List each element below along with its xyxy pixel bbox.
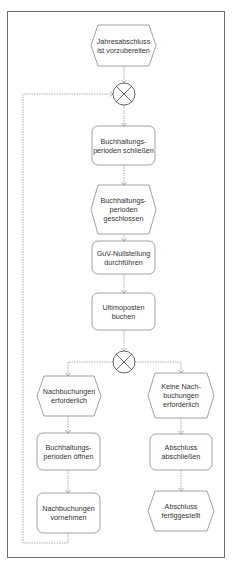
event-no-rebook-label: Keine Nach- buchungen erforderlich [148, 373, 214, 418]
event-rebook-needed-label: Nachbuchungen erforderlich [37, 376, 101, 416]
event-finished-label: Abschluss fertiggestellt [148, 491, 214, 531]
function-guv-label: GuV-Nullstellung durchführen [92, 241, 155, 274]
epc-diagram [0, 0, 232, 568]
function-do-rebook-label: Nachbuchungen vornehmen [37, 493, 100, 533]
xor-join-icon [113, 83, 135, 105]
function-ultimo-label: Ultimoposten buchen [92, 293, 155, 330]
event-periods-closed-label: Buchhaltungs- perioden geschlossen [91, 185, 156, 234]
function-open-periods-label: Buchhaltungs- perioden öffnen [37, 433, 100, 470]
function-close-periods-label: Buchhaltungs- perioden schließen [92, 126, 155, 165]
xor-split-icon [113, 351, 135, 373]
function-finish-label: Abschluss abschließen [150, 434, 212, 470]
event-start-label: Jahresabschluss ist vorzubereiten [91, 25, 156, 66]
